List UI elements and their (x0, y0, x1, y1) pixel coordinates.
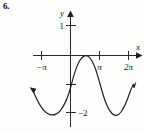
sine-curve (33, 56, 133, 116)
y-tick-label-minus-2: −2 (78, 108, 88, 118)
x-tick-label-2pi: 2π (124, 62, 134, 72)
graph-plot: y x 1 −2 −π π 2π (0, 0, 145, 133)
curve-left-arrow-icon (30, 87, 37, 93)
x-axis-arrow-icon (136, 52, 143, 59)
y-axis-group (67, 11, 74, 128)
y-axis-arrow-icon (67, 11, 74, 18)
x-axis-label: x (135, 42, 140, 52)
figure-container: 6. (0, 0, 145, 133)
x-axis-group (33, 52, 143, 59)
x-tick-label-pi: π (97, 62, 102, 72)
y-axis-label: y (59, 8, 64, 18)
y-tick-label-1: 1 (60, 21, 65, 31)
x-tick-label-neg-pi: −π (36, 62, 47, 72)
